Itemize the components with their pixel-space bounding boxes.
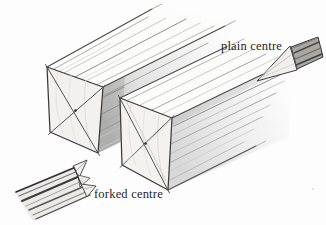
forked-centre-tool xyxy=(15,160,96,221)
right-blank-centre-dot xyxy=(144,142,147,145)
paper-speck xyxy=(312,188,314,190)
forked-centre-label: forked centre xyxy=(94,188,163,201)
illustration-canvas: plain centre forked centre xyxy=(0,0,326,225)
woodturning-centres-sketch xyxy=(0,0,326,225)
left-blank-centre-dot xyxy=(74,109,77,112)
plain-centre-label: plain centre xyxy=(221,40,282,53)
